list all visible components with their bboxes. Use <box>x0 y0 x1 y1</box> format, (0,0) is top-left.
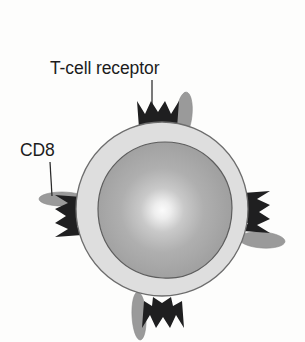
receptor-bottom <box>142 297 184 328</box>
label-cd8: CD8 <box>20 140 55 160</box>
diagram-canvas: T-cell receptor CD8 <box>0 0 305 342</box>
t-cell-diagram: T-cell receptor CD8 <box>0 0 305 342</box>
cd8-right <box>238 230 285 249</box>
label-t-cell-receptor: T-cell receptor <box>50 58 160 78</box>
cell-nucleus <box>98 142 232 278</box>
leader-line-cd8 <box>50 162 52 196</box>
